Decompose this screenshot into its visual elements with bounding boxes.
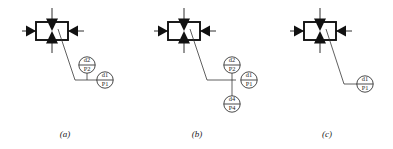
diagram-canvas: d2 P2 d1 P1 (a) bbox=[0, 0, 393, 149]
figure-root: d2 P2 d1 P1 (a) bbox=[0, 0, 393, 149]
panel-a: d2 P2 d1 P1 (a) bbox=[22, 8, 113, 139]
panel-c-arrowheads bbox=[294, 19, 346, 44]
target-b-bottom[interactable]: d4 P4 bbox=[224, 95, 240, 112]
target-a-top[interactable]: d2 P2 bbox=[79, 56, 95, 73]
panel-c: d1 P1 (c) bbox=[290, 8, 373, 139]
panel-b-arrowheads bbox=[158, 19, 210, 44]
target-lower-label: P2 bbox=[84, 65, 91, 72]
arrowhead-left-icon bbox=[26, 26, 36, 37]
target-lower-label: P2 bbox=[229, 65, 236, 72]
panel-c-caption: (c) bbox=[322, 129, 332, 139]
target-upper-label: d1 bbox=[102, 71, 108, 78]
arrowhead-left-icon bbox=[294, 26, 304, 37]
target-c-right[interactable]: d1 P1 bbox=[357, 75, 373, 92]
arrowhead-right-icon bbox=[336, 26, 346, 37]
target-lower-label: P4 bbox=[229, 104, 237, 111]
target-upper-label: d4 bbox=[229, 95, 236, 102]
target-upper-label: d1 bbox=[246, 71, 252, 78]
panel-a-caption: (a) bbox=[60, 129, 71, 139]
panel-b: d2 P2 d1 P1 d4 P4 (b) bbox=[154, 8, 257, 139]
target-upper-label: d2 bbox=[84, 56, 90, 63]
target-b-top[interactable]: d2 P2 bbox=[224, 56, 240, 73]
panel-a-arrowheads bbox=[26, 19, 78, 44]
arrowhead-left-icon bbox=[158, 26, 168, 37]
arrowhead-right-icon bbox=[200, 26, 210, 37]
panel-b-caption: (b) bbox=[192, 129, 203, 139]
arrowhead-right-icon bbox=[68, 26, 78, 37]
target-lower-label: P1 bbox=[362, 84, 369, 91]
target-a-right[interactable]: d1 P1 bbox=[97, 71, 113, 88]
target-b-right[interactable]: d1 P1 bbox=[241, 71, 257, 88]
target-upper-label: d1 bbox=[362, 75, 368, 82]
target-lower-label: P1 bbox=[246, 80, 253, 87]
target-upper-label: d2 bbox=[229, 56, 235, 63]
target-lower-label: P1 bbox=[102, 80, 109, 87]
